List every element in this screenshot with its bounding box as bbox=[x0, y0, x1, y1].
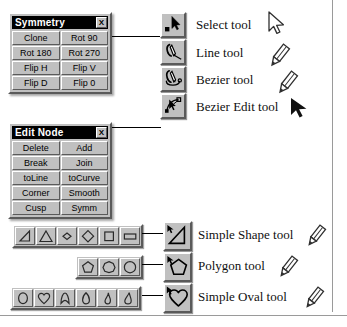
vertical-oval-icon bbox=[78, 290, 94, 306]
page-horizontal-rule bbox=[0, 315, 347, 316]
arrow-select-icon bbox=[162, 14, 184, 36]
edit-node-row: CornerSmooth bbox=[12, 186, 108, 200]
arrow-outline-cursor-icon bbox=[264, 9, 292, 39]
tool-label-polygon: Polygon tool bbox=[198, 258, 265, 274]
tool-label-line: Line tool bbox=[196, 45, 243, 61]
symmetry-button-rot-180[interactable]: Rot 180 bbox=[12, 46, 60, 60]
edit-node-row: BreakJoin bbox=[12, 156, 108, 170]
small-diamond-icon bbox=[59, 228, 75, 244]
palette-cell-leaf[interactable] bbox=[97, 289, 117, 307]
edit-node-button-corner[interactable]: Corner bbox=[12, 186, 60, 200]
edit-node-button-tocurve[interactable]: toCurve bbox=[61, 171, 109, 185]
edit-node-titlebar[interactable]: Edit Node X bbox=[12, 126, 108, 139]
polygon-tool-button[interactable] bbox=[163, 252, 192, 282]
palette-cell-right-triangle[interactable] bbox=[15, 227, 35, 245]
circle-icon bbox=[15, 290, 31, 306]
bezier-node-icon bbox=[162, 95, 184, 117]
heart-shape-icon bbox=[165, 285, 190, 311]
symmetry-titlebar[interactable]: Symmetry X bbox=[12, 16, 108, 29]
rectangle-icon bbox=[122, 228, 138, 244]
palette-cell-large-diamond[interactable] bbox=[78, 227, 98, 245]
edit-node-row: CuspSymm bbox=[12, 201, 108, 215]
connector-editnode-to-bezier-edit bbox=[112, 127, 161, 128]
edit-node-title: Edit Node bbox=[15, 127, 63, 138]
connector-shape-palette bbox=[142, 233, 164, 234]
symmetry-button-clone[interactable]: Clone bbox=[12, 31, 60, 45]
bezier-edit-tool-button[interactable] bbox=[160, 93, 186, 119]
edit-node-button-delete[interactable]: Delete bbox=[12, 141, 60, 155]
symmetry-button-flip-h[interactable]: Flip H bbox=[12, 61, 60, 75]
tool-label-select: Select tool bbox=[196, 17, 251, 33]
equilateral-triangle-icon bbox=[38, 228, 54, 244]
edit-node-row: toLinetoCurve bbox=[12, 171, 108, 185]
oval-palette[interactable] bbox=[10, 286, 141, 310]
pencil-cursor-icon bbox=[298, 285, 328, 313]
pencil-cursor-icon bbox=[270, 69, 302, 99]
symmetry-button-flip-d[interactable]: Flip D bbox=[12, 76, 60, 90]
palette-cell-arch[interactable] bbox=[55, 289, 75, 307]
arrow-solid-cursor-icon bbox=[288, 96, 314, 122]
teardrop-icon bbox=[120, 290, 136, 306]
symmetry-row: CloneRot 90 bbox=[12, 31, 108, 45]
edit-node-button-grid: DeleteAddBreakJointoLinetoCurveCornerSmo… bbox=[12, 141, 108, 215]
close-icon[interactable]: X bbox=[96, 127, 107, 138]
edit-node-panel[interactable]: Edit Node X DeleteAddBreakJointoLinetoCu… bbox=[8, 122, 112, 219]
leaf-icon bbox=[99, 290, 115, 306]
symmetry-title: Symmetry bbox=[15, 17, 65, 28]
palette-cell-square[interactable] bbox=[99, 227, 119, 245]
edit-node-button-toline[interactable]: toLine bbox=[12, 171, 60, 185]
palette-cell-vertical-oval[interactable] bbox=[76, 289, 96, 307]
palette-cell-equilateral-triangle[interactable] bbox=[36, 227, 56, 245]
symmetry-panel[interactable]: Symmetry X CloneRot 90Rot 180Rot 270Flip… bbox=[8, 12, 112, 94]
circle-polygon-icon bbox=[122, 259, 138, 275]
palette-cell-circle-polygon[interactable] bbox=[120, 258, 140, 276]
line-tool-button[interactable] bbox=[160, 39, 186, 65]
symmetry-button-rot-270[interactable]: Rot 270 bbox=[61, 46, 109, 60]
connector-oval-palette bbox=[142, 295, 164, 296]
tool-label-bezier-edit: Bezier Edit tool bbox=[196, 99, 278, 115]
edit-node-button-smooth[interactable]: Smooth bbox=[61, 186, 109, 200]
page-vertical-rule bbox=[332, 0, 333, 312]
symmetry-button-rot-90[interactable]: Rot 90 bbox=[61, 31, 109, 45]
heptagon-icon bbox=[101, 259, 117, 275]
palette-cell-heptagon[interactable] bbox=[99, 258, 119, 276]
connector-symmetry-to-select bbox=[112, 36, 161, 37]
edit-node-button-join[interactable]: Join bbox=[61, 156, 109, 170]
edit-node-row: DeleteAdd bbox=[12, 141, 108, 155]
tool-label-bezier: Bezier tool bbox=[196, 72, 253, 88]
tool-label-simple-shape: Simple Shape tool bbox=[198, 227, 293, 243]
pencil-cursor-icon bbox=[262, 42, 294, 72]
symmetry-button-flip-0[interactable]: Flip 0 bbox=[61, 76, 109, 90]
palette-cell-pentagon[interactable] bbox=[78, 258, 98, 276]
bezier-tool-button[interactable] bbox=[160, 66, 186, 92]
simple-oval-tool-button[interactable] bbox=[163, 283, 192, 313]
arch-icon bbox=[57, 290, 73, 306]
square-icon bbox=[101, 228, 117, 244]
pencil-cursor-icon bbox=[272, 254, 302, 282]
pen-bezier-icon bbox=[162, 68, 184, 90]
pencil-cursor-icon bbox=[300, 223, 330, 251]
palette-cell-heart[interactable] bbox=[34, 289, 54, 307]
connector-polygon-palette bbox=[142, 264, 164, 265]
symmetry-row: Flip DFlip 0 bbox=[12, 76, 108, 90]
simple-shape-tool-button[interactable] bbox=[163, 221, 192, 251]
right-triangle-icon bbox=[17, 228, 33, 244]
palette-cell-teardrop[interactable] bbox=[118, 289, 138, 307]
palette-cell-rectangle[interactable] bbox=[120, 227, 140, 245]
pentagon-shape-icon bbox=[165, 254, 190, 280]
tool-label-simple-oval: Simple Oval tool bbox=[198, 289, 287, 305]
edit-node-button-add[interactable]: Add bbox=[61, 141, 109, 155]
edit-node-button-symm[interactable]: Symm bbox=[61, 201, 109, 215]
large-diamond-icon bbox=[80, 228, 96, 244]
symmetry-row: Rot 180Rot 270 bbox=[12, 46, 108, 60]
palette-cell-circle[interactable] bbox=[13, 289, 33, 307]
symmetry-button-flip-v[interactable]: Flip V bbox=[61, 61, 109, 75]
simple-shape-palette[interactable] bbox=[12, 224, 143, 248]
symmetry-row: Flip HFlip V bbox=[12, 61, 108, 75]
edit-node-button-cusp[interactable]: Cusp bbox=[12, 201, 60, 215]
select-tool-button[interactable] bbox=[160, 12, 186, 38]
palette-cell-small-diamond[interactable] bbox=[57, 227, 77, 245]
polygon-palette[interactable] bbox=[75, 255, 143, 279]
close-icon[interactable]: X bbox=[96, 17, 107, 28]
edit-node-button-break[interactable]: Break bbox=[12, 156, 60, 170]
